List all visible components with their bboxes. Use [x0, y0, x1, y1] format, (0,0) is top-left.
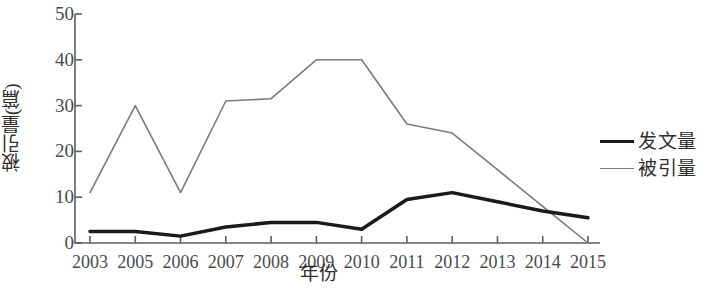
y-tick-label: 10: [40, 187, 74, 206]
x-tick-label: 2003: [72, 252, 108, 272]
series-line-publications: [90, 193, 588, 237]
chart-legend: 发文量 被引量: [600, 128, 716, 182]
legend-line-icon-citations: [600, 168, 634, 169]
x-tick-label: 2011: [389, 252, 424, 272]
legend-item-0: 发文量: [600, 128, 716, 155]
series-line-citations: [90, 60, 588, 243]
legend-label-citations: 被引量: [638, 159, 697, 178]
y-tick-label: 30: [40, 96, 74, 115]
x-tick-label: 2013: [479, 252, 515, 272]
y-tick-label: 40: [40, 50, 74, 69]
x-tick-label: 2006: [163, 252, 199, 272]
legend-line-icon-publications: [600, 140, 634, 143]
legend-label-publications: 发文量: [638, 132, 697, 151]
x-tick-label: 2005: [117, 252, 153, 272]
x-tick-label: 2007: [208, 252, 244, 272]
legend-item-1: 被引量: [600, 155, 716, 182]
x-axis-tick-labels: 2003200520062007200820092010201120122013…: [0, 248, 717, 274]
x-axis-title: 年份: [300, 264, 338, 284]
y-tick-label: 20: [40, 141, 74, 160]
x-tick-label: 2014: [525, 252, 561, 272]
y-tick-label: 50: [40, 4, 74, 23]
y-axis-title: 被引量(篇): [2, 38, 28, 218]
citation-publication-line-chart: 被引量(篇) 01020304050 200320052006200720082…: [0, 0, 717, 292]
x-tick-label: 2010: [344, 252, 380, 272]
x-tick-label: 2008: [253, 252, 289, 272]
x-tick-label: 2012: [434, 252, 470, 272]
x-tick-label: 2015: [570, 252, 606, 272]
